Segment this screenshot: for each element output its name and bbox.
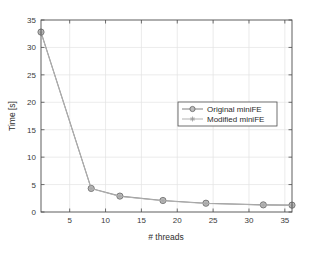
y-tick-label: 10 bbox=[27, 153, 36, 162]
x-tick-label: 30 bbox=[245, 216, 254, 225]
y-tick-label: 5 bbox=[32, 181, 37, 190]
data-point-star-marker bbox=[118, 194, 122, 198]
data-point-star-marker bbox=[204, 201, 208, 205]
data-point-star-marker bbox=[161, 199, 165, 203]
y-axis-title: Time [s] bbox=[7, 101, 17, 131]
data-point-star-marker bbox=[89, 186, 93, 190]
y-tick-label: 0 bbox=[32, 208, 37, 217]
chart-container: 5101520253035 05101520253035 # threads T… bbox=[0, 0, 315, 254]
line-chart: 5101520253035 05101520253035 # threads T… bbox=[0, 0, 315, 254]
legend-label-original: Original miniFE bbox=[207, 105, 262, 114]
x-tick-label: 20 bbox=[173, 216, 182, 225]
x-axis-title: # threads bbox=[148, 232, 183, 242]
legend-label-modified: Modified miniFE bbox=[207, 115, 264, 124]
circle-marker-icon bbox=[190, 106, 195, 111]
x-tick-label: 5 bbox=[67, 216, 72, 225]
x-tick-label: 10 bbox=[101, 216, 110, 225]
x-tick-label: 15 bbox=[137, 216, 146, 225]
legend: Original miniFE Modified miniFE bbox=[178, 102, 277, 126]
y-tick-label: 20 bbox=[27, 98, 36, 107]
x-tick-label: 35 bbox=[280, 216, 289, 225]
y-tick-label: 30 bbox=[27, 43, 36, 52]
y-tick-label: 35 bbox=[27, 16, 36, 25]
data-point-star-marker bbox=[261, 203, 265, 207]
x-tick-label: 25 bbox=[209, 216, 218, 225]
y-tick-label: 25 bbox=[27, 71, 36, 80]
y-tick-label: 15 bbox=[27, 126, 36, 135]
